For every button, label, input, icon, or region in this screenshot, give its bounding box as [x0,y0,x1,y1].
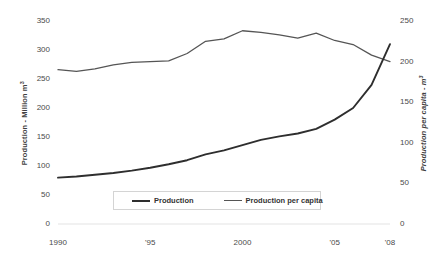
legend-label-production-per-capita: Production per capita [246,196,323,205]
plot-area [0,0,441,259]
legend-swatch-production-icon [132,200,150,202]
legend-swatch-production-per-capita-icon [224,200,242,201]
series-line-production [58,44,390,177]
series-line-production-per-capita [58,31,390,72]
legend-item-production: Production [132,196,194,205]
chart-container: Production - Million m3 Production per c… [0,0,441,259]
legend-item-production-per-capita: Production per capita [224,196,323,205]
chart-legend: Production Production per capita [113,191,321,210]
legend-label-production: Production [154,196,194,205]
